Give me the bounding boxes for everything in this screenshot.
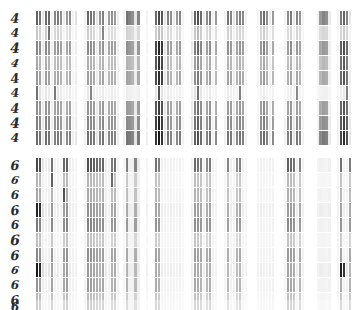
feature-bar [42,233,44,247]
feature-bar [126,41,128,55]
feature-bar [263,173,265,187]
feature-bar [173,116,175,130]
feature-bar [48,203,50,217]
feature-bar [63,101,65,115]
feature-bar [206,300,208,310]
feature-bar [117,188,119,202]
feature-bar [305,173,307,187]
feature-bar [212,26,214,40]
feature-bar [158,86,160,100]
feature-bar [78,101,80,115]
feature-bar [251,71,253,85]
feature-bar [331,203,333,217]
feature-bar [340,86,342,100]
feature-bar [66,26,68,40]
feature-bar [51,188,53,202]
feature-bar [131,188,133,202]
feature-bar [272,41,274,55]
feature-bar [105,248,107,262]
feature-bar [322,158,324,172]
feature-bar [69,188,71,202]
feature-bar [185,71,187,85]
feature-bar [319,131,321,145]
feature-bar [337,56,339,70]
feature-bar [242,41,244,55]
feature-bar [325,131,327,145]
barcode-row: 6 [0,233,357,247]
feature-bar [173,71,175,85]
feature-bar [66,116,68,130]
feature-bar [93,300,95,310]
feature-bar [281,173,283,187]
feature-bar [137,248,139,262]
feature-bar [239,26,241,40]
feature-bar [185,86,187,100]
feature-bar [33,11,35,25]
feature-bar [319,263,321,277]
feature-bar [123,26,125,40]
feature-bar [197,56,199,70]
feature-bar [90,233,92,247]
feature-bar [123,158,125,172]
feature-bar [284,41,286,55]
feature-bar [299,26,301,40]
feature-bar [123,101,125,115]
feature-bar [242,263,244,277]
feature-bar [230,86,232,100]
feature-bar [331,233,333,247]
feature-bar [87,278,89,292]
feature-bar [346,300,348,310]
feature-bar [317,101,319,115]
feature-bar [179,218,181,232]
feature-bar [99,263,101,277]
feature-bar [105,131,107,145]
feature-bar [302,218,304,232]
feature-bar [96,278,98,292]
feature-bar [239,218,241,232]
feature-bar [161,188,163,202]
feature-bar [311,173,313,187]
feature-bar [331,86,333,100]
feature-bar [263,300,265,310]
feature-bar [346,26,348,40]
feature-bar [284,116,286,130]
feature-bar [102,101,104,115]
feature-bar [212,131,214,145]
feature-bar [266,300,268,310]
feature-bar [299,11,301,25]
feature-bar [51,300,53,310]
feature-bar [155,263,157,277]
feature-bar [343,131,345,145]
feature-bar [233,11,235,25]
feature-bar [117,26,119,40]
feature-bar [134,173,136,187]
feature-bar [155,26,157,40]
feature-bar [340,131,342,145]
feature-bar [293,86,295,100]
feature-bar [111,86,113,100]
feature-bar [209,263,211,277]
row-bar-strip [30,278,352,292]
feature-bar [334,173,336,187]
feature-bar [227,131,229,145]
feature-bar [203,41,205,55]
feature-bar [236,188,238,202]
feature-bar [334,158,336,172]
feature-bar [78,11,80,25]
feature-bar [200,26,202,40]
feature-bar [322,203,324,217]
feature-bar [75,248,77,262]
feature-bar [87,56,89,70]
feature-bar [278,86,280,100]
feature-bar [39,116,41,130]
feature-bar [182,158,184,172]
feature-bar [176,101,178,115]
feature-bar [176,218,178,232]
feature-bar [60,188,62,202]
digit-feature-barcode-figure: 44444444466666666666 [0,0,357,310]
row-bar-strip [30,41,352,55]
feature-bar [102,158,104,172]
feature-bar [311,26,313,40]
feature-bar [266,26,268,40]
feature-bar [105,11,107,25]
